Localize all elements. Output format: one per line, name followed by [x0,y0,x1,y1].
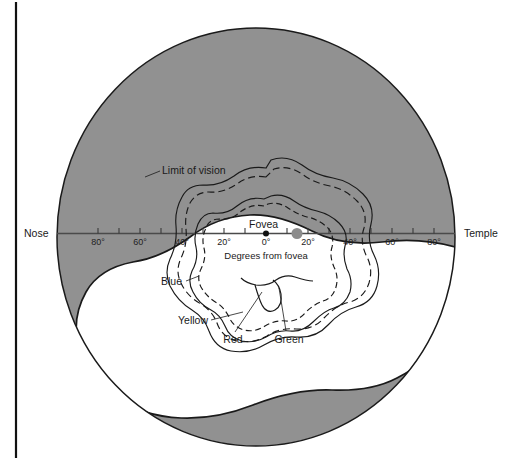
tick-label-right-20: 20° [301,237,315,247]
tick-label-right-40: 40° [343,237,357,247]
label-degrees-from-fovea: Degrees from fovea [224,250,308,261]
tick-label-left-60: 60° [133,237,147,247]
label-green: Green [274,333,303,345]
visual-field-diagram: Nose Temple Limit of vision Blue Yellow … [0,0,519,462]
label-limit-of-vision: Limit of vision [162,164,226,176]
label-yellow: Yellow [178,314,208,326]
label-temple: Temple [464,227,498,239]
tick-label-right-80: 80° [427,237,441,247]
label-blue: Blue [161,275,182,287]
label-fovea: Fovea [249,218,278,230]
tick-label-0: 0° [262,237,271,247]
tick-label-right-60: 60° [385,237,399,247]
label-nose: Nose [24,227,49,239]
fovea-dot [263,231,269,237]
figure-page: Nose Temple Limit of vision Blue Yellow … [0,0,519,462]
tick-label-left-80: 80° [91,237,105,247]
tick-label-left-40: 40° [175,237,189,247]
label-red: Red [223,333,242,345]
tick-label-left-20: 20° [217,237,231,247]
